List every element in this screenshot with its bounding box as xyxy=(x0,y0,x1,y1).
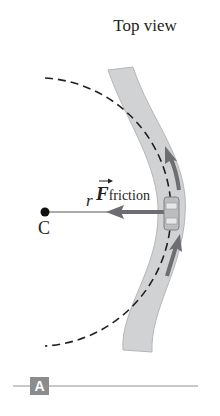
friction-force-label: Ffriction xyxy=(96,183,150,205)
force-symbol: F xyxy=(96,183,109,204)
car-icon xyxy=(164,197,179,230)
center-point xyxy=(41,208,50,217)
center-label: C xyxy=(38,218,50,239)
radius-label: r xyxy=(86,191,93,211)
force-subscript: friction xyxy=(109,188,150,203)
panel-label-badge: A xyxy=(30,377,49,395)
top-view-diagram xyxy=(0,0,220,416)
